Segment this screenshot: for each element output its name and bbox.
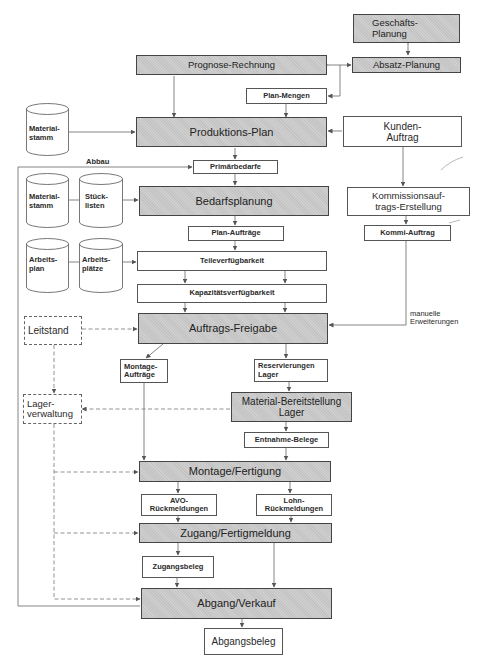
datastore-label: Arbeits- plätze <box>82 256 110 273</box>
doc-kapazitaetsverfuegbarkeit: Kapazitätsverfügbarkeit <box>137 284 327 303</box>
datastore-stuecklisten: Stück- listen <box>79 173 123 228</box>
annotation-abbau: Abbau <box>86 158 109 166</box>
doc-zugangsbeleg: Zugangsbeleg <box>142 556 214 578</box>
datastore-materialstamm-1: Material- stamm <box>26 103 69 156</box>
process-auftrags-freigabe: Auftrags-Freigabe <box>138 313 328 344</box>
doc-plan-mengen: Plan-Mengen <box>246 88 327 104</box>
process-geschaefts-planung: Geschäfts- Planung <box>353 14 460 43</box>
doc-abgangsbeleg: Abgangsbeleg <box>204 628 283 655</box>
datastore-label: Stück- listen <box>85 193 108 210</box>
doc-montage-auftraege: Montage- Aufträge <box>120 359 168 383</box>
doc-lohn-rueckmeldungen: Lohn- Rückmeldungen <box>256 494 332 516</box>
datastore-arbeitsplaetze: Arbeits- plätze <box>79 238 123 293</box>
system-leitstand: Leitstand <box>24 316 82 345</box>
doc-plan-auftraege: Plan-Aufträge <box>188 226 284 241</box>
doc-kunden-auftrag: Kunden- Auftrag <box>343 116 462 147</box>
process-bedarfsplanung: Bedarfsplanung <box>139 186 329 216</box>
process-material-bereitstellung-lager: Material-Bereitstellung Lager <box>231 392 352 422</box>
doc-kommi-auftrag: Kommi-Auftrag <box>364 225 451 241</box>
annotation-manuelle-erweiterungen: manuelle Erweiterungen <box>410 310 458 327</box>
process-absatz-planung: Absatz-Planung <box>352 57 461 73</box>
datastore-label: Arbeits- plan <box>29 256 57 273</box>
process-abgang-verkauf: Abgang/Verkauf <box>141 588 332 619</box>
doc-avo-rueckmeldungen: AVO- Rückmeldungen <box>141 494 217 516</box>
datastore-label: Material- stamm <box>29 125 60 142</box>
process-montage-fertigung: Montage/Fertigung <box>139 461 331 482</box>
process-zugang-fertigmeldung: Zugang/Fertigmeldung <box>139 523 332 543</box>
doc-entnahme-belege: Entnahme-Belege <box>244 432 329 448</box>
flowchart: Geschäfts- Planung Absatz-Planung Progno… <box>0 0 484 670</box>
doc-reservierungen-lager: Reservierungen Lager <box>254 359 328 382</box>
system-lagerverwaltung: Lager- verwaltung <box>23 394 82 424</box>
doc-primaerbedarfe: Primärbedarfe <box>193 160 278 174</box>
datastore-label: Material- stamm <box>29 193 60 210</box>
datastore-arbeitsplan: Arbeits- plan <box>26 238 69 293</box>
doc-teileverfuegbarkeit: Teileverfügbarkeit <box>137 251 327 271</box>
datastore-materialstamm-2: Material- stamm <box>26 173 69 228</box>
process-prognose-rechnung: Prognose-Rechnung <box>136 55 327 75</box>
process-produktions-plan: Produktions-Plan <box>136 117 327 147</box>
doc-kommissionsauftrags-erstellung: Kommissionsauf- trags-Erstellung <box>347 187 470 216</box>
